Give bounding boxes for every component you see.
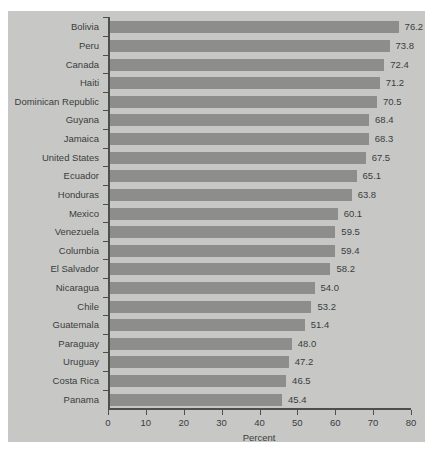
x-axis-tick — [184, 410, 185, 415]
category-tick — [103, 92, 108, 93]
bar-row: Peru73.8 — [108, 40, 419, 52]
bar-value-label: 47.2 — [295, 355, 314, 369]
bar-row: Costa Rica46.5 — [108, 375, 419, 387]
bar — [110, 208, 338, 220]
bar — [110, 356, 289, 368]
bar — [110, 245, 335, 257]
bar-value-label: 59.5 — [341, 225, 360, 239]
plot-area: Bolivia76.2Peru73.8Canada72.4Haiti71.2Do… — [108, 17, 419, 413]
category-tick — [103, 129, 108, 130]
category-tick — [103, 17, 108, 18]
x-axis-tick — [411, 410, 412, 415]
category-label: Guatemala — [53, 317, 99, 332]
bar-value-label: 70.5 — [383, 95, 402, 109]
category-label: Chile — [77, 299, 99, 314]
bar — [110, 59, 384, 71]
bar-value-label: 68.4 — [375, 113, 394, 127]
bar — [110, 226, 335, 238]
bar — [110, 189, 352, 201]
category-tick — [103, 55, 108, 56]
category-tick — [103, 241, 108, 242]
bar-chart: Bolivia76.2Peru73.8Canada72.4Haiti71.2Do… — [0, 0, 448, 464]
x-axis-tick-label: 50 — [292, 417, 303, 428]
category-tick — [103, 73, 108, 74]
bar-value-label: 58.2 — [336, 262, 355, 276]
bar-value-label: 45.4 — [288, 393, 307, 407]
category-tick — [103, 315, 108, 316]
bar-row: Honduras63.8 — [108, 189, 419, 201]
bar-value-label: 60.1 — [344, 207, 363, 221]
bar-row: Guyana68.4 — [108, 114, 419, 126]
x-axis-tick-label: 30 — [216, 417, 227, 428]
bar — [110, 77, 380, 89]
category-label: Guyana — [66, 112, 99, 127]
bar — [110, 282, 315, 294]
bar — [110, 301, 311, 313]
x-axis-title: Percent — [243, 432, 276, 443]
category-tick — [103, 185, 108, 186]
category-tick — [103, 278, 108, 279]
bar — [110, 338, 292, 350]
bar-row: United States67.5 — [108, 152, 419, 164]
category-tick — [103, 110, 108, 111]
x-axis-tick-label: 10 — [141, 417, 152, 428]
category-tick — [103, 204, 108, 205]
bar — [110, 263, 330, 275]
bar-row: Uruguay47.2 — [108, 356, 419, 368]
bar — [110, 152, 366, 164]
category-label: Paraguay — [58, 336, 99, 351]
category-label: Nicaragua — [56, 280, 99, 295]
bar-row: Dominican Republic70.5 — [108, 96, 419, 108]
bar — [110, 394, 282, 406]
category-tick — [103, 352, 108, 353]
category-tick — [103, 36, 108, 37]
category-tick — [103, 334, 108, 335]
chart-panel: Bolivia76.2Peru73.8Canada72.4Haiti71.2Do… — [8, 11, 425, 442]
x-axis-tick-label: 70 — [368, 417, 379, 428]
x-axis-tick — [146, 410, 147, 415]
bar-row: Haiti71.2 — [108, 77, 419, 89]
x-axis-tick — [335, 410, 336, 415]
bar-row: Nicaragua54.0 — [108, 282, 419, 294]
bar — [110, 114, 369, 126]
x-axis-tick — [297, 410, 298, 415]
bar-row: Venezuela59.5 — [108, 226, 419, 238]
category-tick — [103, 259, 108, 260]
bar-value-label: 51.4 — [311, 318, 330, 332]
bar-value-label: 48.0 — [298, 337, 317, 351]
category-label: Jamaica — [64, 131, 99, 146]
bar-value-label: 73.8 — [396, 39, 415, 53]
bar-row: Panama45.4 — [108, 394, 419, 406]
bar-value-label: 65.1 — [363, 169, 382, 183]
bar-value-label: 46.5 — [292, 374, 311, 388]
bar-row: Paraguay48.0 — [108, 338, 419, 350]
category-label: Peru — [79, 38, 99, 53]
bar — [110, 40, 390, 52]
bar-value-label: 71.2 — [386, 76, 405, 90]
bar-row: El Salvador58.2 — [108, 263, 419, 275]
category-label: Mexico — [69, 206, 99, 221]
category-label: Canada — [66, 57, 99, 72]
category-label: Uruguay — [63, 354, 99, 369]
bar — [110, 375, 286, 387]
x-axis-tick-label: 80 — [406, 417, 417, 428]
category-label: Costa Rica — [53, 373, 99, 388]
category-tick — [103, 371, 108, 372]
bar-row: Bolivia76.2 — [108, 21, 419, 33]
x-axis-tick-label: 0 — [105, 417, 110, 428]
category-label: Columbia — [59, 243, 99, 258]
bar-row: Jamaica68.3 — [108, 133, 419, 145]
category-tick — [103, 222, 108, 223]
bar-row: Canada72.4 — [108, 59, 419, 71]
bar-value-label: 53.2 — [317, 300, 336, 314]
bar-row: Ecuador65.1 — [108, 170, 419, 182]
category-label: Haiti — [80, 75, 99, 90]
x-axis-tick — [373, 410, 374, 415]
category-label: Panama — [64, 392, 99, 407]
bar-value-label: 54.0 — [321, 281, 340, 295]
bar-row: Mexico60.1 — [108, 208, 419, 220]
x-axis-tick-label: 40 — [254, 417, 265, 428]
bar — [110, 319, 305, 331]
category-tick — [103, 166, 108, 167]
category-label: United States — [42, 150, 99, 165]
